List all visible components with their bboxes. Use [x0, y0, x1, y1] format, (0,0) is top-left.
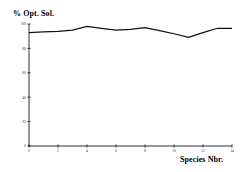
y-tick-label: 0	[24, 144, 26, 148]
y-tick-label: 20	[22, 120, 26, 124]
y-tick-label: 40	[22, 96, 26, 100]
x-tick-label: 4	[86, 149, 88, 153]
x-tick-label: 2	[57, 149, 59, 153]
y-tick-label: 60	[22, 71, 26, 75]
x-tick-label: 12	[201, 149, 205, 153]
y-tick-label: 100	[20, 22, 26, 26]
x-tick-label: 6	[115, 149, 117, 153]
x-tick-label: 0	[28, 149, 30, 153]
x-tick-label: 14	[230, 149, 234, 153]
data-series-line	[29, 26, 232, 37]
chart-figure: % Opt. Sol. Species Nbr. 020406080100 02…	[0, 0, 244, 172]
x-tick-label: 10	[172, 149, 176, 153]
x-tick-label: 8	[144, 149, 146, 153]
axes-group	[29, 24, 232, 146]
y-tick-label: 80	[22, 47, 26, 51]
line-chart-plot: 020406080100 02468101214	[0, 0, 244, 172]
